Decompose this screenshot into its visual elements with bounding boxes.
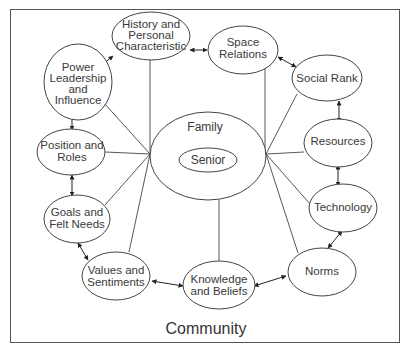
community-title: Community (166, 320, 247, 337)
spoke-power (104, 103, 150, 154)
node-technology: Technology (309, 184, 377, 232)
arrow-space-social (278, 57, 296, 67)
node-knowledge: Knowledge and Beliefs (183, 261, 255, 309)
goals-label-2: Felt Needs (49, 218, 105, 230)
social-label: Social Rank (296, 72, 358, 84)
space-label-1: Space (227, 36, 260, 48)
spoke-norms (266, 154, 298, 253)
values-label-2: Sentiments (87, 276, 145, 288)
node-position: Position and Roles (37, 129, 105, 175)
family-node: Family Senior (150, 112, 266, 200)
family-label: Family (187, 120, 222, 134)
arrow-knowledge-values (152, 281, 183, 286)
space-label-2: Relations (219, 48, 267, 60)
goals-label-1: Goals and (51, 206, 103, 218)
knowledge-label-1: Knowledge (191, 273, 248, 285)
node-history: History and Personal Characteristic (112, 12, 190, 60)
arrow-values-goals (78, 243, 88, 260)
spoke-resources (266, 152, 304, 154)
node-norms: Norms (288, 248, 356, 296)
spoke-technology (266, 154, 310, 204)
arrow-technology-norms (328, 231, 342, 248)
spoke-goals (105, 154, 150, 205)
position-label-2: Roles (57, 151, 87, 163)
spoke-values (129, 154, 150, 252)
history-label-3: Characteristic (116, 40, 187, 52)
position-label-1: Position and (40, 139, 103, 151)
resources-label: Resources (311, 135, 366, 147)
community-diagram: Family Senior History and Personal Chara… (0, 0, 407, 353)
values-label-1: Values and (88, 264, 145, 276)
technology-label: Technology (314, 201, 372, 213)
arrow-norms-knowledge (254, 276, 286, 286)
knowledge-label-2: and Beliefs (191, 285, 248, 297)
node-social: Social Rank (292, 55, 362, 101)
node-goals: Goals and Felt Needs (44, 195, 110, 243)
node-power: Power Leadership and Influence (44, 44, 112, 120)
power-label-4: Influence (55, 94, 102, 106)
senior-label: Senior (191, 153, 226, 167)
spoke-position (105, 152, 150, 154)
spoke-social (266, 94, 297, 154)
node-values: Values and Sentiments (82, 252, 150, 300)
node-space: Space Relations (208, 26, 278, 74)
norms-label: Norms (305, 265, 339, 277)
node-resources: Resources (304, 119, 372, 167)
